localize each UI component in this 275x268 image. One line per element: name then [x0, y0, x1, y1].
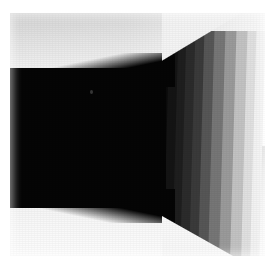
side-wall-band-group — [162, 31, 265, 256]
void-upper-bevel — [10, 53, 175, 87]
photo-frame: Dark Architectural Recess A deep black r… — [0, 0, 275, 268]
void-lower-bevel — [10, 189, 175, 223]
dark-void — [10, 68, 166, 208]
highlight-speck — [90, 90, 93, 94]
photograph-plate — [10, 13, 265, 256]
